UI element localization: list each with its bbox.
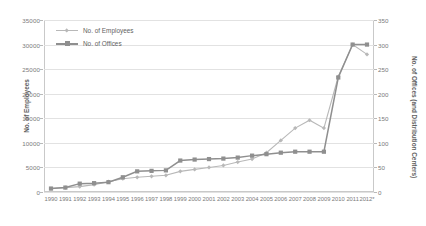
data-point-marker: [164, 173, 168, 177]
y-axis-right-tick-label: 50: [378, 164, 385, 171]
y-axis-right-tick-mark: [374, 143, 377, 144]
data-point-marker: [221, 156, 225, 160]
y-axis-right-title-holder: No. of Offices (and Distribution Centers…: [404, 20, 416, 192]
y-axis-right-tick-label: 200: [378, 90, 388, 97]
data-point-marker: [149, 174, 153, 178]
y-axis-right-tick-label: 150: [378, 115, 388, 122]
y-axis-right-tick-label: 100: [378, 139, 388, 146]
data-point-marker: [221, 163, 225, 167]
x-axis-tick-label: 1996: [131, 196, 144, 202]
data-point-marker: [207, 157, 211, 161]
y-axis-left-tick-mark: [40, 143, 43, 144]
x-axis-tick-label: 1993: [88, 196, 101, 202]
data-point-marker: [178, 169, 182, 173]
y-axis-left-title: No. of Employees: [23, 79, 30, 133]
y-axis-left-tick-label: 30000: [22, 41, 40, 48]
data-point-marker: [236, 156, 240, 160]
y-axis-right-tick-mark: [374, 69, 377, 70]
data-point-marker: [49, 186, 53, 190]
legend-item-offices: No. of Offices: [56, 37, 133, 50]
legend-marker: [65, 41, 70, 46]
data-point-marker: [92, 181, 96, 185]
data-point-marker: [264, 152, 268, 156]
data-point-marker: [307, 150, 311, 154]
y-axis-left-tick-mark: [40, 167, 43, 168]
data-point-marker: [193, 167, 197, 171]
x-axis-tick-label: 2009: [317, 196, 330, 202]
y-axis-right-tick-label: 0: [378, 189, 381, 196]
y-axis-left-tick-label: 35000: [22, 17, 40, 24]
data-point-marker: [365, 42, 369, 46]
data-point-marker: [293, 150, 297, 154]
data-point-marker: [307, 118, 311, 122]
y-axis-right-tick-mark: [374, 192, 377, 193]
y-axis-right-tick-label: 350: [378, 17, 388, 24]
x-axis-tick-label: 2008: [303, 196, 316, 202]
legend-swatch-offices: [56, 40, 78, 48]
data-point-marker: [336, 75, 340, 79]
data-point-marker: [322, 150, 326, 154]
y-axis-right-tick-mark: [374, 167, 377, 168]
data-point-marker: [178, 158, 182, 162]
y-axis-right-title: No. of Offices (and Distribution Centers…: [411, 56, 418, 156]
data-point-marker: [322, 126, 326, 130]
x-axis-tick-label: 2000: [188, 196, 201, 202]
data-point-marker: [121, 175, 125, 179]
data-point-marker: [149, 169, 153, 173]
legend-label-offices: No. of Offices: [83, 40, 122, 47]
data-point-marker: [135, 169, 139, 173]
y-axis-left-tick-mark: [40, 192, 43, 193]
x-axis-tick-label: 2002: [217, 196, 230, 202]
x-axis-tick-label: 1990: [45, 196, 58, 202]
y-axis-right-tick-label: 300: [378, 41, 388, 48]
x-axis-tick-label: 1992: [73, 196, 86, 202]
y-axis-left-tick-label: 10000: [22, 139, 40, 146]
legend-swatch-employees: [56, 27, 78, 35]
data-point-marker: [250, 154, 254, 158]
x-axis-tick-label: 2004: [246, 196, 259, 202]
data-point-marker: [193, 157, 197, 161]
y-axis-right-tick-mark: [374, 94, 377, 95]
y-axis-left-tick-mark: [40, 118, 43, 119]
y-axis-right-tick-label: 250: [378, 66, 388, 73]
y-axis-left-tick-label: 25000: [22, 66, 40, 73]
data-point-marker: [106, 180, 110, 184]
x-axis-tick-label: 1995: [116, 196, 129, 202]
x-axis-tick-label: 1999: [174, 196, 187, 202]
data-point-marker: [135, 175, 139, 179]
data-point-marker: [63, 185, 67, 189]
x-axis-tick-label: 2006: [274, 196, 287, 202]
data-point-marker: [351, 42, 355, 46]
chart-legend: No. of Employees No. of Offices: [56, 24, 133, 50]
data-point-marker: [78, 182, 82, 186]
y-axis-right-tick-mark: [374, 45, 377, 46]
x-axis-tick-label: 2011: [346, 196, 358, 202]
x-axis-tick-label: 2003: [231, 196, 244, 202]
y-axis-left-tick-label: 5000: [26, 164, 40, 171]
x-axis-tick-label: 2007: [289, 196, 302, 202]
x-axis-tick-label: 1997: [145, 196, 158, 202]
legend-marker: [65, 28, 70, 33]
data-point-marker: [207, 165, 211, 169]
data-point-marker: [164, 168, 168, 172]
chart-container: 05000100001500020000250003000035000 0501…: [0, 0, 426, 226]
legend-label-employees: No. of Employees: [83, 27, 133, 34]
data-point-marker: [236, 160, 240, 164]
y-axis-left-title-holder: No. of Employees: [2, 20, 12, 192]
x-axis-tick-label: 2010: [332, 196, 345, 202]
x-axis-tick-label: 1994: [102, 196, 115, 202]
x-axis-tick-label: 2012*: [359, 196, 374, 202]
gridline: [44, 192, 374, 193]
x-axis-tick-label: 2005: [260, 196, 273, 202]
y-axis-right-tick-mark: [374, 20, 377, 21]
y-axis-left-tick-mark: [40, 94, 43, 95]
data-point-marker: [279, 151, 283, 155]
x-axis-tick-label: 2001: [203, 196, 216, 202]
y-axis-left-tick-mark: [40, 69, 43, 70]
y-axis-left-tick-mark: [40, 45, 43, 46]
legend-item-employees: No. of Employees: [56, 24, 133, 37]
x-axis-tick-label: 1991: [59, 196, 72, 202]
y-axis-left-tick-mark: [40, 20, 43, 21]
x-axis-tick-label: 1998: [159, 196, 172, 202]
series-employees: [49, 42, 369, 190]
